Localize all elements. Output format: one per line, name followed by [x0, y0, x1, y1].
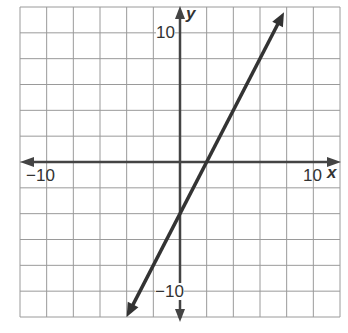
x-axis-label: x	[327, 164, 336, 181]
y-axis-label: y	[186, 5, 195, 22]
x-max-tick-label: 10	[303, 167, 322, 184]
y-min-tick-label: −10	[155, 283, 184, 300]
y-max-tick-label: 10	[156, 24, 175, 41]
x-min-tick-label: −10	[26, 167, 55, 184]
y-axis	[175, 6, 185, 322]
